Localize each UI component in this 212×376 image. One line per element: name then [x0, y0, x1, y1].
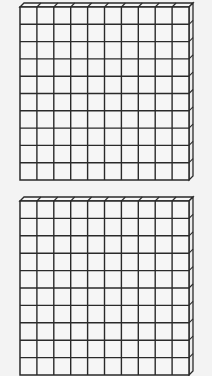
hundred-flat-1 [20, 3, 193, 180]
hundred-flat-2 [20, 197, 193, 375]
diagram [0, 0, 212, 376]
base-ten-flats-canvas [0, 0, 212, 376]
